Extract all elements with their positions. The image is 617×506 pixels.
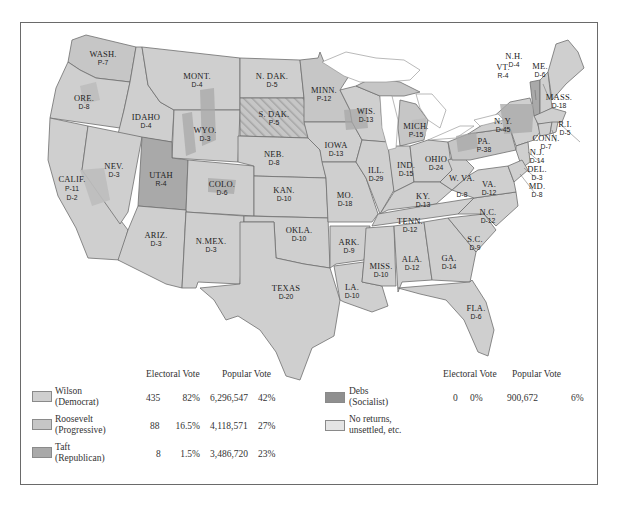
svg-text:WASH.: WASH. xyxy=(89,49,116,59)
swatch-debs xyxy=(325,392,345,403)
svg-text:N.MEX.: N.MEX. xyxy=(196,236,226,246)
electoral-votes: 88 xyxy=(150,421,160,431)
svg-text:D-13: D-13 xyxy=(359,116,374,123)
svg-text:N.J.: N.J. xyxy=(530,147,545,157)
svg-text:D-5: D-5 xyxy=(267,81,278,88)
popular-votes: 3,486,720 xyxy=(210,449,248,459)
candidate-party: (Republican) xyxy=(55,453,105,463)
svg-text:D-5: D-5 xyxy=(560,129,571,136)
svg-text:FLA.: FLA. xyxy=(467,303,486,313)
svg-text:CONN.: CONN. xyxy=(532,133,559,143)
svg-text:D-9: D-9 xyxy=(344,247,355,254)
svg-text:ALA.: ALA. xyxy=(402,254,422,264)
svg-text:D-4: D-4 xyxy=(192,81,203,88)
candidate-party: (Democrat) xyxy=(55,397,99,407)
svg-text:TENN.: TENN. xyxy=(397,216,423,226)
electoral-pct: 0% xyxy=(470,393,483,403)
electoral-vote-header: Electoral Vote xyxy=(443,369,497,379)
svg-text:NEB.: NEB. xyxy=(264,149,284,159)
svg-text:WIS.: WIS. xyxy=(357,106,376,116)
svg-text:CALIF.: CALIF. xyxy=(58,174,85,184)
legend-label: No returns, xyxy=(349,414,392,424)
svg-text:ORE.: ORE. xyxy=(74,93,94,103)
svg-text:ILL.: ILL. xyxy=(368,165,384,175)
svg-text:D-4: D-4 xyxy=(141,122,152,129)
svg-text:IDAHO: IDAHO xyxy=(132,112,160,122)
svg-text:S. DAK.: S. DAK. xyxy=(259,109,290,119)
svg-text:D-8: D-8 xyxy=(532,191,543,198)
svg-text:P-5: P-5 xyxy=(269,119,280,126)
svg-text:D-9: D-9 xyxy=(470,244,481,251)
svg-text:D-10: D-10 xyxy=(292,235,307,242)
svg-text:D-20: D-20 xyxy=(279,293,294,300)
svg-text:LA.: LA. xyxy=(345,282,359,292)
svg-text:D-6: D-6 xyxy=(217,189,228,196)
svg-text:MASS.: MASS. xyxy=(546,92,572,102)
svg-text:N. DAK.: N. DAK. xyxy=(256,71,288,81)
popular-pct: 23% xyxy=(258,449,275,459)
popular-vote-header: Popular Vote xyxy=(512,369,561,379)
state-ariz xyxy=(118,206,186,288)
svg-text:S.C.: S.C. xyxy=(467,234,482,244)
svg-text:D-2: D-2 xyxy=(67,194,78,201)
svg-text:P-11: P-11 xyxy=(65,185,79,192)
svg-text:D-10: D-10 xyxy=(345,292,360,299)
svg-text:R-4: R-4 xyxy=(498,72,509,79)
electoral-pct: 16.5% xyxy=(166,421,200,431)
svg-text:P-15: P-15 xyxy=(409,131,424,138)
svg-text:MONT.: MONT. xyxy=(183,71,211,81)
popular-votes: 4,118,571 xyxy=(210,421,248,431)
candidate-party: (Socialist) xyxy=(349,397,388,407)
svg-text:ARIZ.: ARIZ. xyxy=(145,230,168,240)
swatch-taft xyxy=(32,447,52,458)
popular-vote-header: Popular Vote xyxy=(222,369,271,379)
svg-text:PA.: PA. xyxy=(478,136,491,146)
svg-text:D-45: D-45 xyxy=(496,126,511,133)
svg-text:MINN.: MINN. xyxy=(311,85,337,95)
svg-text:D-3: D-3 xyxy=(532,174,543,181)
svg-text:D-12: D-12 xyxy=(403,226,418,233)
svg-text:P-12: P-12 xyxy=(317,95,332,102)
candidate-name: Roosevelt xyxy=(55,414,93,424)
electoral-votes: 8 xyxy=(156,449,161,459)
popular-pct: 42% xyxy=(258,393,275,403)
svg-text:D-8: D-8 xyxy=(79,103,90,110)
svg-text:D-6: D-6 xyxy=(535,71,546,78)
svg-text:D-3: D-3 xyxy=(200,135,211,142)
svg-text:D-3: D-3 xyxy=(151,240,162,247)
svg-text:MO.: MO. xyxy=(337,190,353,200)
svg-text:W. VA.: W. VA. xyxy=(449,173,475,183)
svg-text:D-12: D-12 xyxy=(481,217,496,224)
svg-text:P-7: P-7 xyxy=(98,59,109,66)
svg-text:D-8: D-8 xyxy=(457,191,468,198)
electoral-votes: 0 xyxy=(453,393,458,403)
svg-text:D-10: D-10 xyxy=(374,271,389,278)
svg-text:MD.: MD. xyxy=(529,181,545,191)
svg-text:MICH.: MICH. xyxy=(403,121,428,131)
svg-text:ARK.: ARK. xyxy=(339,237,360,247)
swatch-roosevelt xyxy=(32,419,52,430)
svg-text:R.I.: R.I. xyxy=(558,119,572,129)
svg-text:OHIO: OHIO xyxy=(425,154,447,164)
popular-votes: 900,672 xyxy=(507,393,538,403)
svg-text:D-12: D-12 xyxy=(405,264,420,271)
svg-text:D-14: D-14 xyxy=(530,157,545,164)
swatch-wilson xyxy=(32,391,52,402)
popular-votes: 6,296,547 xyxy=(210,393,248,403)
state-me xyxy=(548,40,584,100)
svg-text:D-4: D-4 xyxy=(509,61,520,68)
electoral-vote-header: Electoral Vote xyxy=(146,369,200,379)
svg-text:DEL.: DEL. xyxy=(527,164,546,174)
svg-text:D-24: D-24 xyxy=(429,164,444,171)
popular-pct: 6% xyxy=(571,393,584,403)
svg-text:D-12: D-12 xyxy=(482,189,497,196)
svg-text:D-13: D-13 xyxy=(416,201,431,208)
svg-text:IOWA: IOWA xyxy=(325,140,349,150)
svg-text:D-14: D-14 xyxy=(442,263,457,270)
svg-text:N. Y.: N. Y. xyxy=(494,116,512,126)
candidate-party: (Progressive) xyxy=(55,425,106,435)
svg-text:D-6: D-6 xyxy=(471,313,482,320)
svg-text:D-13: D-13 xyxy=(329,150,344,157)
svg-text:MISS.: MISS. xyxy=(370,261,393,271)
svg-text:R-4: R-4 xyxy=(156,180,167,187)
